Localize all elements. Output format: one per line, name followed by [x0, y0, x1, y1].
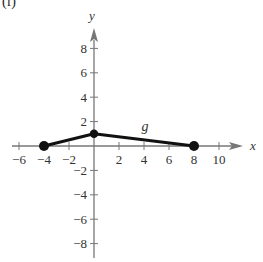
y-tick-label: 2	[81, 114, 88, 129]
x-tick-label: 6	[166, 152, 173, 167]
x-tick-label: −4	[37, 152, 51, 167]
closed-endpoint-dot	[39, 141, 49, 151]
x-tick-label: 10	[213, 152, 226, 167]
function-label-g: g	[142, 119, 149, 134]
y-tick-label: 4	[81, 90, 88, 105]
graph-of-g: xy−6−4−22468108642−2−4−6−8g	[0, 0, 263, 262]
y-axis-arrow-icon	[90, 28, 98, 42]
y-tick-label: 6	[81, 65, 88, 80]
x-tick-label: 2	[116, 152, 123, 167]
y-tick-label: 8	[81, 41, 88, 56]
y-tick-label: −4	[73, 187, 87, 202]
vertex-dot	[90, 130, 98, 138]
y-tick-label: −2	[73, 163, 87, 178]
x-tick-label: −6	[12, 152, 26, 167]
x-tick-label: 8	[191, 152, 198, 167]
x-axis-label: x	[249, 138, 256, 153]
closed-endpoint-dot	[189, 141, 199, 151]
y-tick-label: −6	[73, 212, 87, 227]
y-axis-label: y	[87, 8, 95, 23]
x-tick-label: 4	[141, 152, 148, 167]
y-tick-label: −8	[73, 236, 87, 251]
